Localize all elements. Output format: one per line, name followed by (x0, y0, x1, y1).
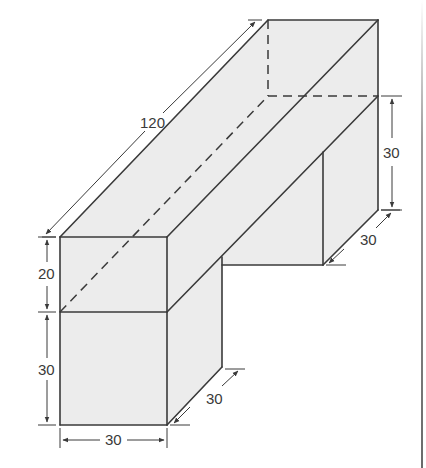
label-20: 20 (38, 265, 55, 282)
dimension-front-width-30: 30 (60, 428, 167, 448)
label-30-back-height: 30 (383, 144, 400, 161)
diagram-canvas: 120 20 30 30 (0, 0, 426, 468)
label-30-front-height: 30 (38, 361, 55, 378)
faces (60, 20, 378, 425)
label-30-back-depth: 30 (360, 231, 377, 248)
label-120: 120 (140, 114, 165, 131)
dimension-front-height-30: 30 (38, 315, 56, 425)
solid-figure: 120 20 30 30 (0, 0, 426, 468)
label-30-front-depth: 30 (206, 390, 223, 407)
page-edge-divider (421, 0, 423, 468)
dimension-beam-height-20: 20 (38, 237, 56, 312)
dimension-back-height-30: 30 (381, 96, 402, 210)
label-30-front-width: 30 (105, 431, 122, 448)
